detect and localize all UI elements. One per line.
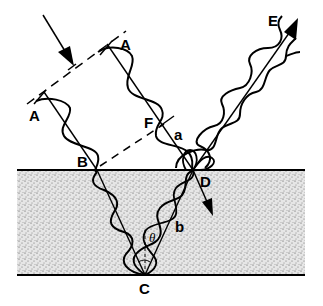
thin-film-diagram: A A B C D E F a b θ bbox=[0, 0, 323, 306]
wave-D-E-2 bbox=[197, 16, 282, 168]
incident-arrow-icon bbox=[43, 15, 74, 66]
label-B: B bbox=[77, 153, 88, 170]
ray-A-B bbox=[44, 92, 97, 170]
wave-D-E-1 bbox=[176, 38, 296, 168]
label-A-left: A bbox=[29, 107, 40, 124]
label-A-right: A bbox=[120, 36, 131, 53]
wave-A-B bbox=[36, 99, 98, 172]
label-a: a bbox=[174, 126, 183, 143]
wave-D-E-tail bbox=[286, 52, 300, 56]
label-theta: θ bbox=[149, 230, 156, 245]
label-b: b bbox=[175, 218, 184, 235]
wavefront-dashed-line bbox=[27, 31, 126, 104]
label-E: E bbox=[268, 12, 278, 29]
dashed-line-B-F bbox=[100, 124, 164, 166]
ray-A-F-D bbox=[107, 44, 193, 170]
reflected-ray-D-E bbox=[193, 26, 294, 170]
wave-A-F-D bbox=[98, 48, 193, 170]
label-F: F bbox=[144, 114, 153, 131]
label-D: D bbox=[200, 173, 211, 190]
label-C: C bbox=[139, 280, 150, 297]
